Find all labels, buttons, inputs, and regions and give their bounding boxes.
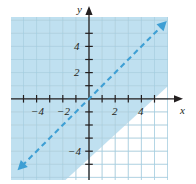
- y-axis-label: y: [77, 4, 82, 15]
- x-tick-label-4: 4: [138, 106, 144, 117]
- coordinate-plane-figure: −4 −2 2 4 4 2 −4 y x: [0, 0, 196, 184]
- y-tick-label-4: 4: [74, 41, 80, 52]
- x-axis-label: x: [180, 105, 185, 116]
- x-tick-label-neg2: −2: [57, 106, 70, 117]
- x-tick-label-neg4: −4: [31, 106, 44, 117]
- graph-canvas: [0, 0, 196, 184]
- y-tick-label-neg4: −4: [68, 146, 81, 157]
- x-tick-label-2: 2: [112, 106, 118, 117]
- y-tick-label-2: 2: [74, 67, 80, 78]
